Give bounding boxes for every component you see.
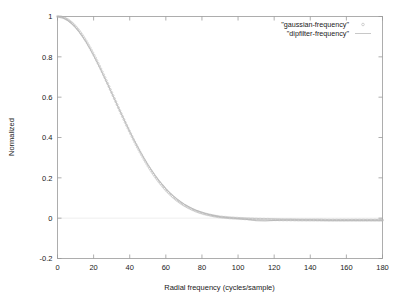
x-tick-label: 40	[126, 263, 134, 272]
x-tick-label: 100	[232, 263, 245, 272]
x-tick-label: 60	[162, 263, 170, 272]
y-tick-label: -0.2	[40, 254, 53, 263]
y-tick-label: 0	[48, 214, 52, 223]
x-tick-label: 0	[55, 263, 59, 272]
x-tick-label: 180	[376, 263, 389, 272]
chart-container: 020406080100120140160180 -0.200.20.40.60…	[0, 0, 397, 299]
y-tick-label: 0.4	[42, 133, 52, 142]
y-tick-label: 0.2	[42, 174, 52, 183]
legend-label: "dipfilter-frequency"	[287, 29, 350, 38]
x-axis-title: Radial frequency (cycles/sample)	[164, 283, 275, 292]
x-tick-label: 80	[198, 263, 206, 272]
legend-label: "gaussian-frequency"	[281, 20, 349, 29]
y-axis-title: Normalized	[7, 118, 16, 156]
x-tick-label: 160	[340, 263, 353, 272]
plot-area: 020406080100120140160180 -0.200.20.40.60…	[0, 0, 397, 299]
y-tick-label: 0.6	[42, 93, 52, 102]
y-tick-label: 1	[48, 12, 52, 21]
y-tick-label: 0.8	[42, 53, 52, 62]
chart-background	[0, 0, 397, 299]
x-tick-label: 120	[268, 263, 281, 272]
x-tick-label: 20	[89, 263, 97, 272]
x-tick-label: 140	[304, 263, 317, 272]
